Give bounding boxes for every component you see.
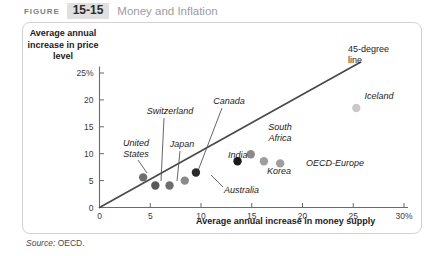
figure-header: FIGURE 15-15 Money and Inflation: [0, 2, 439, 20]
x-tick-label: 25: [343, 211, 363, 221]
source-note: Source: OECD.: [26, 238, 85, 248]
data-point-label-row: Africa: [258, 133, 302, 144]
x-tick-label: 15: [242, 211, 262, 221]
y-tick-label: 20: [60, 95, 94, 105]
data-point-label: Japan: [166, 139, 198, 150]
data-point-label: Iceland: [357, 91, 401, 102]
line-label-row1: 45-degree: [348, 44, 389, 55]
data-point-label-row: South: [258, 122, 302, 133]
data-point-label: Australia: [224, 185, 268, 196]
y-tick-label: 10: [60, 149, 94, 159]
figure-root: FIGURE 15-15 Money and Inflation Average…: [0, 0, 439, 256]
y-tick-label: 0: [60, 203, 94, 213]
data-point-label: India: [228, 150, 256, 161]
data-point-label-row: Japan: [166, 139, 198, 150]
x-tick-label: 10: [191, 211, 211, 221]
data-point-label: Korea: [262, 166, 296, 177]
y-tick-label: 25%: [60, 68, 94, 78]
source-prefix: Source:: [26, 238, 55, 248]
data-point-label: UnitedStates: [115, 138, 157, 159]
source-text: OECD.: [58, 238, 85, 248]
x-tick-label: 5: [140, 211, 160, 221]
data-point-label-row: Iceland: [357, 91, 401, 102]
data-point-label: OECD-Europe: [306, 158, 368, 169]
data-point-label-row: Korea: [262, 166, 296, 177]
data-point-label-row: India: [228, 150, 256, 161]
data-point-label-row: Switzerland: [139, 106, 201, 117]
data-point-label-row: States: [115, 149, 157, 160]
data-point-label: Switzerland: [139, 106, 201, 117]
data-point-label: SouthAfrica: [258, 122, 302, 143]
figure-title: Money and Inflation: [117, 5, 217, 17]
data-point-label-row: OECD-Europe: [306, 158, 368, 169]
y-axis-title: Average annual increase in price level: [24, 28, 102, 63]
y-tick-label: 5: [60, 176, 94, 186]
figure-label: FIGURE: [24, 7, 60, 16]
y-tick-label: 15: [60, 122, 94, 132]
x-tick-label: 20: [293, 211, 313, 221]
figure-number: 15-15: [67, 3, 110, 19]
forty-five-degree-line-label: 45-degree line: [348, 44, 389, 66]
data-point-label-row: Australia: [224, 185, 268, 196]
data-point-label-row: United: [115, 138, 157, 149]
x-tick-label: 30%: [394, 211, 414, 221]
data-point-label-row: Canada: [209, 96, 249, 107]
line-label-row2: line: [348, 55, 389, 66]
data-point-label: Canada: [209, 96, 249, 107]
